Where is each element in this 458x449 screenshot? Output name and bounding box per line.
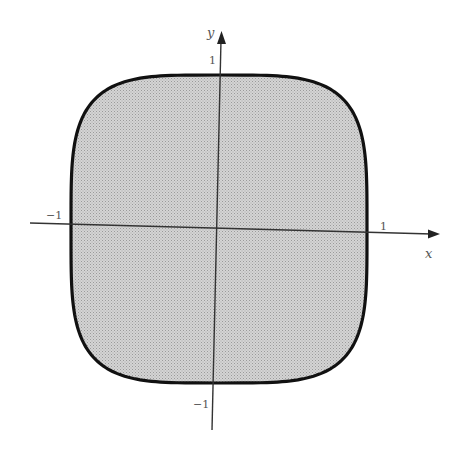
x-axis-arrow-icon [428, 230, 440, 239]
y-axis-arrow-icon [217, 31, 226, 44]
y-tick-pos-label: 1 [209, 54, 216, 67]
superellipse-diagram: y 1 −1 1 x −1 [0, 0, 458, 449]
x-tick-pos-label: 1 [380, 220, 387, 233]
y-tick-neg-label: −1 [193, 398, 209, 411]
x-axis-label: x [425, 246, 433, 261]
x-tick-neg-label: −1 [46, 209, 62, 222]
y-axis-label: y [206, 25, 215, 40]
